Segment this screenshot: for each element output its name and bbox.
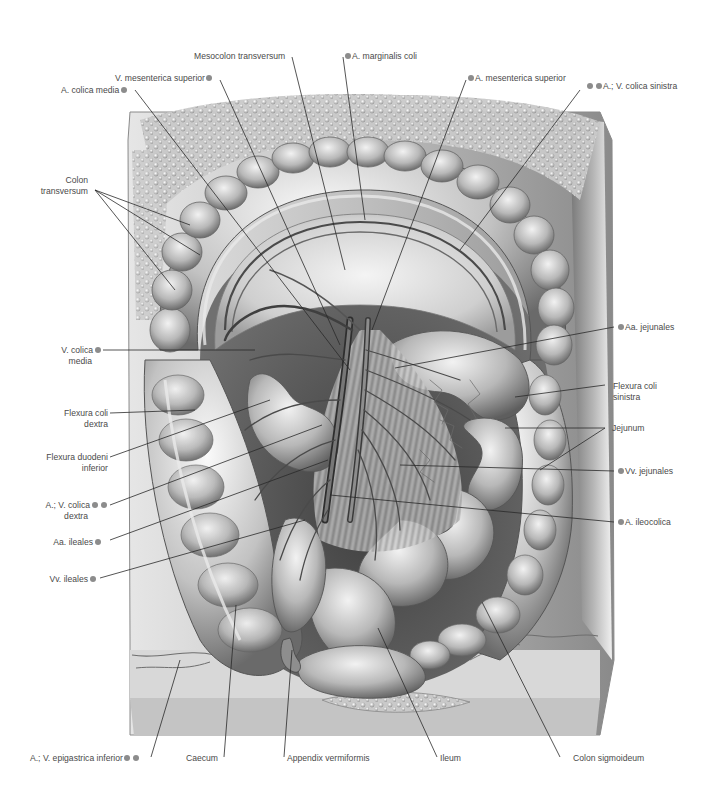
label-text: Vv. jejunales <box>625 466 673 476</box>
label-flexura-coli-sinistra: Flexura coli sinistra <box>613 381 657 402</box>
artery-marker-dot-icon <box>92 502 98 508</box>
label-text: V. colica <box>61 345 93 355</box>
label-text: sinistra <box>613 392 657 403</box>
label-text: Aa. jejunales <box>625 322 674 332</box>
label-text: Caecum <box>186 753 218 763</box>
label-a-colica-media: A. colica media <box>61 85 128 96</box>
vein-marker-dot-icon <box>596 83 602 89</box>
label-text: dextra <box>30 419 108 430</box>
label-text: inferior <box>20 463 108 474</box>
label-v-mesenterica-superior: V. mesenterica superior <box>115 73 214 84</box>
artery-marker-dot-icon <box>345 53 351 59</box>
label-ileum: Ileum <box>440 753 461 764</box>
label-text: Colon sigmoideum <box>573 753 644 763</box>
label-appendix-vermiformis: Appendix vermiformis <box>287 753 370 764</box>
artery-marker-dot-icon <box>468 75 474 81</box>
label-text: Flexura coli <box>613 381 657 392</box>
label-aa-ileales: Aa. ileales <box>20 537 102 548</box>
label-aa-jejunales: Aa. jejunales <box>616 322 674 333</box>
label-text: transversum <box>30 186 88 197</box>
label-a-ileocolica: A. ileocolica <box>616 517 671 528</box>
label-text: Vv. ileales <box>49 574 88 584</box>
label-text: A.; V. colica <box>45 500 90 510</box>
vein-marker-dot-icon <box>90 576 96 582</box>
label-text: Colon <box>30 175 88 186</box>
label-v-colica-media: V. colica media <box>30 345 102 366</box>
label-text: Jejunum <box>612 423 644 433</box>
label-a-v-colica-dextra: A.; V. colica dextra <box>20 500 108 521</box>
vein-marker-dot-icon <box>206 75 212 81</box>
vein-marker-dot-icon <box>95 347 101 353</box>
label-mesocolon-transversum: Mesocolon transversum <box>194 51 285 62</box>
label-a-v-epigastrica-inferior: A.; V. epigastrica inferior <box>30 753 141 764</box>
vein-marker-dot-icon <box>101 502 107 508</box>
label-text: A. marginalis coli <box>352 51 417 61</box>
artery-marker-dot-icon <box>587 83 593 89</box>
label-text: dextra <box>20 511 108 522</box>
vein-marker-dot-icon <box>133 755 139 761</box>
label-text: A.; V. colica sinistra <box>603 81 677 91</box>
label-colon-transversum: Colon transversum <box>30 175 88 196</box>
label-text: Mesocolon transversum <box>194 51 285 61</box>
label-text: V. mesenterica superior <box>115 73 205 83</box>
artery-marker-dot-icon <box>95 539 101 545</box>
label-text: Flexura duodeni <box>20 452 108 463</box>
label-text: A. ileocolica <box>625 517 671 527</box>
label-text: A. mesenterica superior <box>475 73 566 83</box>
label-a-v-colica-sinistra: A.; V. colica sinistra <box>585 81 677 92</box>
label-caecum: Caecum <box>186 753 218 764</box>
label-a-mesenterica-superior: A. mesenterica superior <box>466 73 566 84</box>
label-text: media <box>30 356 102 367</box>
label-text: A.; V. epigastrica inferior <box>30 753 123 763</box>
label-jejunum: Jejunum <box>612 423 644 434</box>
label-flexura-duodeni-inferior: Flexura duodeni inferior <box>20 452 108 473</box>
label-text: A. colica media <box>61 85 119 95</box>
label-text: Flexura coli <box>30 408 108 419</box>
artery-marker-dot-icon <box>618 519 624 525</box>
label-vv-ileales: Vv. ileales <box>20 574 97 585</box>
artery-marker-dot-icon <box>618 324 624 330</box>
label-a-marginalis-coli: A. marginalis coli <box>343 51 417 62</box>
label-text: Aa. ileales <box>53 537 93 547</box>
label-colon-sigmoideum: Colon sigmoideum <box>573 753 644 764</box>
label-vv-jejunales: Vv. jejunales <box>616 466 673 477</box>
vein-marker-dot-icon <box>618 468 624 474</box>
artery-marker-dot-icon <box>124 755 130 761</box>
label-text: Ileum <box>440 753 461 763</box>
label-flexura-coli-dextra: Flexura coli dextra <box>30 408 108 429</box>
artery-marker-dot-icon <box>121 87 127 93</box>
label-text: Appendix vermiformis <box>287 753 370 763</box>
anatomy-illustration <box>0 0 715 801</box>
